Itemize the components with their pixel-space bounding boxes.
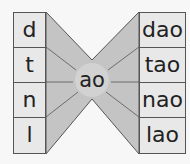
pinyin-combination-diagram: d t n l ao dao tao nao lao <box>0 0 190 164</box>
initial-cell: t <box>14 48 45 83</box>
initial-cell: d <box>14 13 45 48</box>
syllable-cell: lao <box>140 118 185 152</box>
syllables-column: dao tao nao lao <box>139 12 186 154</box>
initial-cell: n <box>14 83 45 118</box>
syllable-cell: nao <box>140 83 185 118</box>
final-label: ao <box>72 66 112 94</box>
syllable-cell: dao <box>140 13 185 48</box>
initials-column: d t n l <box>13 12 46 154</box>
syllable-cell: tao <box>140 48 185 83</box>
initial-cell: l <box>14 118 45 152</box>
